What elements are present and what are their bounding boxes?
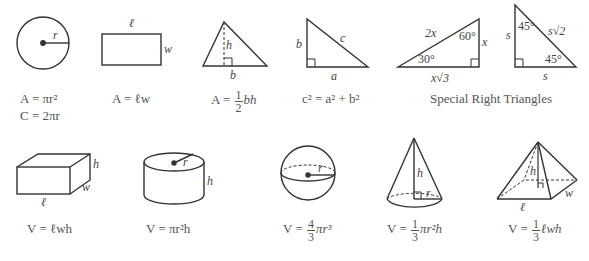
triangle-figure bbox=[203, 22, 267, 66]
label-b: b bbox=[230, 68, 236, 82]
cone-volume-formula: V = 13πr²h bbox=[387, 218, 442, 243]
label-r: r bbox=[183, 155, 188, 169]
label-45deg-top: 45° bbox=[518, 19, 535, 33]
label-45deg-bottom: 45° bbox=[545, 52, 562, 66]
cylinder-figure bbox=[144, 153, 204, 204]
label-s: s bbox=[506, 28, 511, 42]
label-h: h bbox=[530, 164, 536, 178]
box-figure bbox=[17, 154, 90, 194]
label-60deg: 60° bbox=[459, 29, 476, 43]
sphere-volume-formula: V = 43πr³ bbox=[283, 218, 331, 243]
circle-figure bbox=[17, 17, 69, 69]
pyramid-volume-formula: V = 13ℓwh bbox=[508, 218, 562, 243]
label-l: ℓ bbox=[129, 16, 134, 30]
label-r: r bbox=[426, 186, 431, 200]
sphere-figure bbox=[281, 146, 335, 200]
label-r: r bbox=[53, 28, 58, 42]
label-l: ℓ bbox=[520, 200, 525, 214]
rectangle-area-formula: A = ℓw bbox=[112, 92, 150, 106]
pythagorean-formula: c² = a² + b² bbox=[302, 92, 359, 106]
label-w: w bbox=[82, 180, 90, 194]
label-x: x bbox=[481, 35, 488, 49]
circle-area-formula: A = πr² bbox=[20, 92, 57, 106]
label-s: s bbox=[543, 69, 548, 83]
cylinder-volume-formula: V = πr²h bbox=[146, 222, 190, 236]
triangle-30-60-90-figure bbox=[398, 19, 479, 67]
label-h: h bbox=[417, 166, 423, 180]
label-w: w bbox=[565, 186, 573, 200]
label-30deg: 30° bbox=[418, 52, 435, 66]
label-r: r bbox=[318, 161, 323, 175]
label-c: c bbox=[340, 31, 346, 45]
box-volume-formula: V = ℓwh bbox=[27, 222, 72, 236]
label-w: w bbox=[164, 42, 172, 56]
circle-circumference-formula: C = 2πr bbox=[20, 109, 60, 123]
right-triangle-figure bbox=[307, 19, 368, 67]
label-2x: 2x bbox=[425, 26, 437, 40]
label-x-root3: x√3 bbox=[430, 71, 449, 85]
label-h: h bbox=[207, 174, 213, 188]
rectangle-figure bbox=[102, 34, 161, 65]
label-s-root2: s√2 bbox=[548, 24, 565, 38]
label-h: h bbox=[226, 38, 232, 52]
triangle-area-formula: A = 12bh bbox=[211, 89, 257, 114]
label-h: h bbox=[93, 157, 99, 171]
cone-figure bbox=[387, 138, 442, 207]
label-l: ℓ bbox=[41, 195, 46, 209]
label-b: b bbox=[296, 37, 302, 51]
label-a: a bbox=[331, 69, 337, 83]
special-right-triangles-caption: Special Right Triangles bbox=[430, 92, 552, 106]
